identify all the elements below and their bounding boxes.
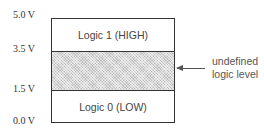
annotation-line2: logic level xyxy=(212,68,258,81)
label-0v: 0.0 V xyxy=(13,116,35,126)
undefined-annotation: undefined logic level xyxy=(212,55,258,81)
label-1-5v: 1.5 V xyxy=(13,84,35,94)
arrow-left-icon xyxy=(177,68,205,69)
zone-high: Logic 1 (HIGH) xyxy=(52,19,174,51)
annotation-line1: undefined xyxy=(212,55,258,68)
zone-high-label: Logic 1 (HIGH) xyxy=(78,29,148,41)
zone-undefined xyxy=(52,51,174,91)
zone-low-label: Logic 0 (LOW) xyxy=(79,101,147,113)
logic-level-box: Logic 1 (HIGH) Logic 0 (LOW) xyxy=(51,18,175,123)
label-3-5v: 3.5 V xyxy=(13,44,35,54)
label-5v: 5.0 V xyxy=(13,10,35,20)
zone-low: Logic 0 (LOW) xyxy=(52,91,174,122)
